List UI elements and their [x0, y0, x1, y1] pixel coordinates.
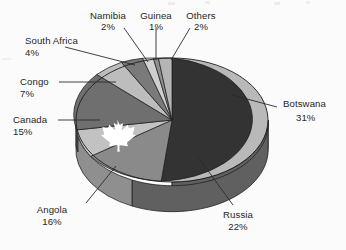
- label-namibia-name: Namibia: [90, 10, 126, 21]
- label-others-name: Others: [186, 10, 215, 21]
- label-botswana-pct: 31%: [296, 112, 316, 123]
- label-canada-pct: 15%: [13, 126, 33, 137]
- label-angola-name: Angola: [37, 204, 68, 215]
- label-others-pct: 2%: [194, 21, 208, 32]
- label-guinea-name: Guinea: [140, 10, 172, 21]
- label-south-africa-pct: 4%: [25, 47, 39, 58]
- label-south-africa-name: South Africa: [25, 35, 78, 46]
- pie-chart-svg: Namibia 2% Guinea 1% Others 2% South Afr…: [0, 0, 346, 250]
- label-guinea-pct: 1%: [149, 21, 163, 32]
- label-russia-name: Russia: [223, 209, 253, 220]
- pie-chart-figure: Namibia 2% Guinea 1% Others 2% South Afr…: [0, 0, 346, 250]
- label-russia-pct: 22%: [228, 221, 248, 232]
- label-congo-pct: 7%: [20, 88, 34, 99]
- label-angola-pct: 16%: [42, 216, 62, 227]
- label-namibia-pct: 2%: [101, 21, 115, 32]
- label-canada-name: Canada: [13, 114, 48, 125]
- pie-body: [74, 58, 268, 212]
- label-botswana-name: Botswana: [283, 98, 326, 109]
- label-congo-name: Congo: [20, 76, 49, 87]
